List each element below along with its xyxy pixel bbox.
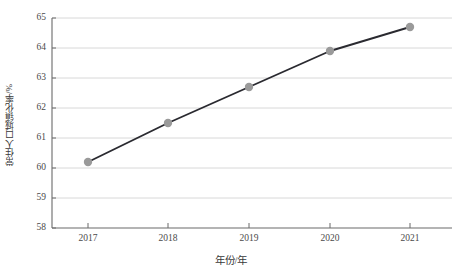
y-tick-label-63: 63 — [24, 72, 46, 82]
y-tick-label-64: 64 — [24, 42, 46, 52]
y-tick-marks — [52, 18, 56, 228]
x-tick-marks — [88, 223, 410, 228]
data-point-2019 — [245, 83, 253, 91]
gridlines — [52, 18, 452, 198]
y-tick-label-60: 60 — [24, 162, 46, 172]
x-tick-label-2020: 2020 — [310, 233, 350, 243]
y-tick-label-61: 61 — [24, 132, 46, 142]
y-tick-label-62: 62 — [24, 102, 46, 112]
x-tick-label-2017: 2017 — [68, 233, 108, 243]
line-chart: 65 64 63 62 61 60 59 58 2017 2018 2019 2… — [0, 0, 462, 278]
data-point-2018 — [164, 119, 172, 127]
y-tick-label-58: 58 — [24, 222, 46, 232]
data-point-2020 — [326, 47, 334, 55]
y-axis-title: 常住人口城镇化率/% — [4, 50, 20, 200]
x-tick-label-2018: 2018 — [148, 233, 188, 243]
x-tick-label-2019: 2019 — [229, 233, 269, 243]
x-tick-label-2021: 2021 — [390, 233, 430, 243]
data-point-2021 — [406, 23, 414, 31]
x-axis-title: 年份/年 — [0, 252, 462, 267]
y-tick-label-65: 65 — [24, 12, 46, 22]
y-tick-label-59: 59 — [24, 192, 46, 202]
data-markers — [84, 23, 414, 166]
data-line-series-1 — [88, 27, 410, 162]
data-point-2017 — [84, 158, 92, 166]
axis-lines — [52, 18, 452, 228]
